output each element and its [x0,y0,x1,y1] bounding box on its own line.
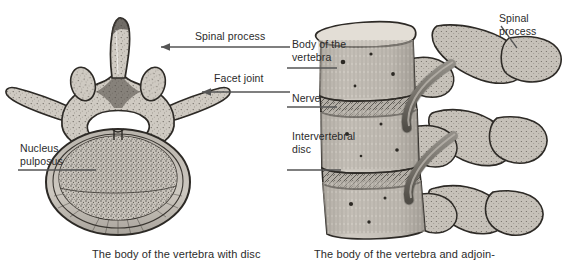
anatomy-figure: Spinal process Facet joint Nucleus pulpo… [0,0,575,266]
spinal-process [111,18,130,78]
label-body-of-the-vertebra: Body of the vertebra [292,38,346,63]
posterior-elements [402,25,561,235]
label-nerve: Nerve [292,92,321,105]
caption-right-panel: The body of the vertebra and adjoin- [314,248,495,261]
spinal-process-lower [486,191,544,235]
spinal-process-middle [490,117,548,163]
label-intervertebral-disc: Intervertebral disc [292,130,355,155]
label-nucleus-pulposus: Nucleus pulposus [20,142,63,167]
label-spinal-process-left: Spinal process [195,30,265,43]
label-spinal-process-right: Spinal process [499,12,536,37]
vertebral-body-with-disc [46,129,190,236]
spinal-process-upper [501,36,561,81]
label-facet-joint: Facet joint [214,72,264,85]
caption-left-panel: The body of the vertebra with disc [92,248,261,261]
